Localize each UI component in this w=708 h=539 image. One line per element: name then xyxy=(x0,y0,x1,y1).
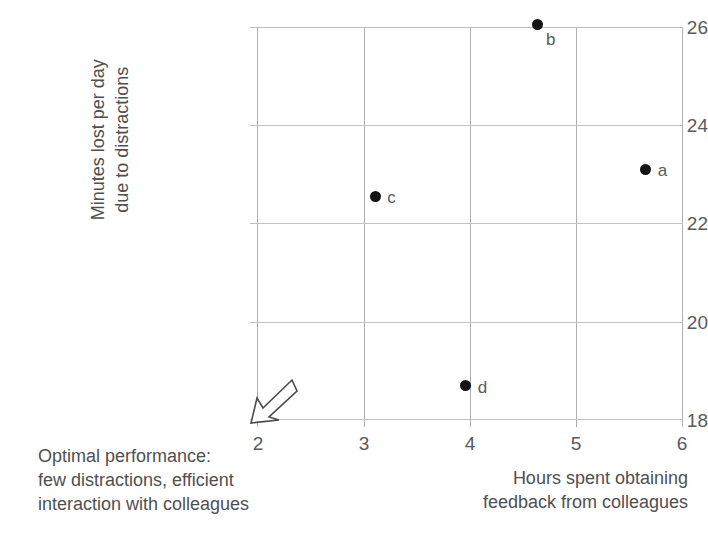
scatter-chart: Minutes lost per day due to distractions… xyxy=(0,0,708,539)
gridline-y-20 xyxy=(257,322,683,323)
y-tick-mark-20 xyxy=(250,322,257,323)
y-axis-title-line-1: Minutes lost per day xyxy=(87,20,111,260)
data-point-label-b: b xyxy=(546,31,555,48)
gridline-y-24 xyxy=(257,125,683,126)
note-line-2: few distractions, efficient xyxy=(38,468,249,492)
data-point-label-a: a xyxy=(658,162,667,179)
data-point-label-c: c xyxy=(387,189,396,206)
note-line-3: interaction with colleagues xyxy=(38,492,249,516)
x-axis-title-line-1: Hours spent obtaining xyxy=(483,466,688,490)
x-tick-mark-4 xyxy=(470,420,471,427)
data-point-a[interactable] xyxy=(640,164,651,175)
x-tick-mark-3 xyxy=(364,420,365,427)
y-tick-mark-22 xyxy=(250,223,257,224)
x-tick-mark-5 xyxy=(576,420,577,427)
down-left-arrow-icon xyxy=(246,378,298,426)
x-tick-label-3: 3 xyxy=(359,434,370,453)
x-axis-title: Hours spent obtaining feedback from coll… xyxy=(483,466,688,514)
x-tick-label-6: 6 xyxy=(677,434,688,453)
gridline-y-22 xyxy=(257,223,683,224)
plot-area: a b c d xyxy=(257,27,683,420)
x-tick-label-2: 2 xyxy=(253,434,264,453)
y-tick-mark-24 xyxy=(250,125,257,126)
y-axis-title: Minutes lost per day due to distractions xyxy=(87,20,135,260)
x-tick-mark-6 xyxy=(682,420,683,427)
y-axis-title-line-2: due to distractions xyxy=(111,20,135,260)
data-point-c[interactable] xyxy=(370,191,381,202)
data-point-label-d: d xyxy=(478,379,487,396)
x-axis-title-line-2: feedback from colleagues xyxy=(483,490,688,514)
gridline-y-26 xyxy=(257,27,683,28)
x-tick-label-4: 4 xyxy=(465,434,476,453)
optimal-performance-note: Optimal performance: few distractions, e… xyxy=(38,444,249,516)
y-tick-mark-26 xyxy=(250,27,257,28)
data-point-b[interactable] xyxy=(532,19,543,30)
note-line-1: Optimal performance: xyxy=(38,444,249,468)
x-tick-label-5: 5 xyxy=(571,434,582,453)
